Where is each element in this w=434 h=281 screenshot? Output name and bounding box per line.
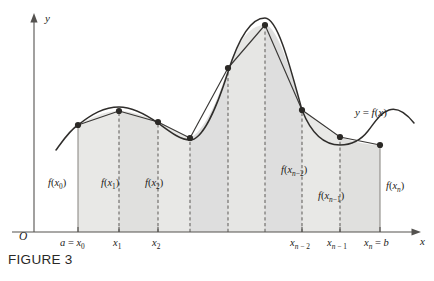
tick-label-x0: a = x0 (60, 238, 85, 249)
dot-x2 (155, 119, 161, 125)
height-label-fxn2: f(xn−2) (281, 165, 307, 176)
dot-x1 (116, 108, 122, 114)
dot-x3 (187, 135, 193, 141)
band-7 (340, 137, 380, 232)
dot-x5 (262, 22, 268, 28)
band-1 (119, 111, 158, 232)
height-label-fx1: f(x1) (101, 178, 119, 189)
band-0 (78, 111, 119, 232)
figure-trapezoidal-rule: y x O y = f(x) a = x0 x1 x2 xn − 2 xn − … (0, 0, 434, 281)
x-axis-label: x (420, 236, 425, 247)
tick-label-xn: xn = b (364, 238, 389, 249)
tick-label-x2: x2 (152, 238, 160, 249)
band-3 (190, 68, 228, 232)
dot-x6 (299, 107, 305, 113)
figure-caption: FIGURE 3 (8, 252, 73, 267)
dot-x4 (225, 65, 231, 71)
height-label-fx2: f(x2) (145, 178, 163, 189)
height-label-fxn: f(xn) (386, 181, 404, 192)
tick-label-xn2: xn − 2 (290, 238, 310, 249)
y-axis-arrowhead (30, 13, 37, 23)
curve-equation-label: y = f(x) (355, 107, 387, 118)
band-6 (302, 110, 340, 232)
origin-label: O (19, 231, 27, 243)
dot-xn (377, 142, 383, 148)
height-label-fxn1: f(xn−1) (318, 191, 344, 202)
band-5 (265, 25, 302, 232)
y-axis-label: y (45, 13, 50, 24)
height-label-fx0: f(x0) (48, 178, 66, 189)
dot-x0 (75, 122, 81, 128)
tick-label-xn1: xn − 1 (327, 238, 347, 249)
dot-x7 (337, 134, 343, 140)
tick-label-x1: x1 (113, 238, 121, 249)
